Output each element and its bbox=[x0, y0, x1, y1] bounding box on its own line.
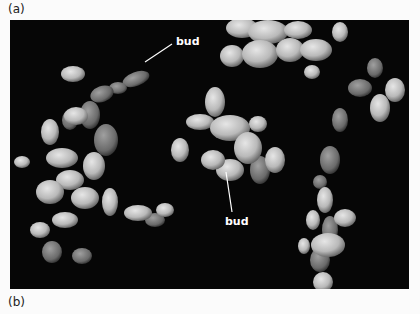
bud-pointer-line-top bbox=[145, 44, 172, 62]
bud-label-center: bud bbox=[225, 215, 249, 228]
annotation-pointers bbox=[10, 20, 409, 289]
yeast-micrograph: bud bud bbox=[10, 20, 409, 289]
panel-label-a: (a) bbox=[8, 2, 25, 16]
panel-label-b: (b) bbox=[8, 295, 25, 309]
bud-label-top: bud bbox=[176, 35, 200, 48]
bud-pointer-line-center bbox=[226, 172, 232, 212]
